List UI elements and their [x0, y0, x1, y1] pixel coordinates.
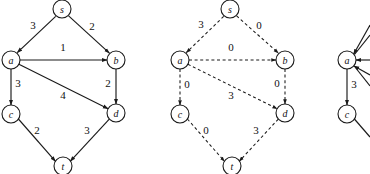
figure-canvas: s a b c d t 3 2 1 3 4 2 2 3: [0, 0, 370, 174]
edge-d-t-residual: [239, 119, 278, 161]
edge-offscreen-a-lower: [354, 66, 370, 75]
edge-weight-s-a-residual: 3: [198, 18, 204, 30]
edge-weight-c-t-residual: 0: [203, 124, 209, 136]
node-t-residual-label: t: [231, 161, 234, 172]
edge-c-offscreen-lower: [354, 119, 370, 137]
edge-weight-b-d-residual: 0: [274, 77, 280, 89]
edge-weight-group-panel-2: 3 0 0 0 3 0 0 3: [184, 18, 280, 136]
node-c-label: c: [9, 109, 14, 120]
edge-a-offscreen-lower: [355, 67, 370, 86]
node-b-label: b: [114, 55, 119, 66]
edge-weight-b-d: 2: [105, 77, 111, 89]
edge-d-t: [70, 119, 109, 161]
edge-weight-a-c-third: 3: [351, 78, 357, 90]
edge-weight-c-t: 2: [34, 124, 40, 136]
node-a-residual-label: a: [178, 55, 183, 66]
edge-a-d: [19, 64, 108, 108]
edge-weight-d-t: 3: [84, 124, 90, 136]
edge-offscreen-a-upper: [354, 25, 370, 54]
node-a-label: a: [9, 55, 14, 66]
edge-weight-d-t-residual: 3: [253, 124, 259, 136]
node-c-residual-label: c: [178, 109, 183, 120]
panel-residual-network: s a b c d t 3 0 0 0 3 0 0 3: [171, 0, 294, 174]
panel-original-network: s a b c d t 3 2 1 3 4 2 2 3: [2, 0, 125, 174]
edge-weight-a-d: 4: [60, 89, 66, 101]
edge-weight-s-b-residual: 0: [256, 19, 262, 31]
edge-weight-a-c-residual: 0: [184, 78, 190, 90]
edge-s-a: [17, 16, 55, 52]
node-c-third-label: c: [345, 109, 350, 120]
graph-figure: s a b c d t 3 2 1 3 4 2 2 3: [0, 0, 370, 174]
edge-weight-s-a: 3: [30, 19, 36, 31]
node-a-third-label: a: [345, 55, 350, 66]
edge-weight-a-b: 1: [60, 41, 66, 53]
panel-third-network-cropped: a c 3: [338, 25, 370, 137]
node-t-label: t: [62, 161, 65, 172]
edge-weight-group-panel-3: 3: [351, 78, 357, 90]
edge-weight-group-panel-1: 3 2 1 3 4 2 2 3: [15, 19, 111, 136]
edge-weight-a-d-residual: 3: [228, 89, 234, 101]
node-s-residual-label: s: [228, 4, 232, 15]
edge-weight-a-c: 3: [15, 77, 21, 89]
edge-s-a-residual: [186, 16, 223, 52]
node-s-label: s: [60, 4, 64, 15]
node-b-residual-label: b: [283, 55, 288, 66]
edge-weight-a-b-residual: 0: [228, 41, 234, 53]
edge-weight-s-b: 2: [89, 20, 95, 32]
edge-a-d-residual: [188, 64, 277, 108]
